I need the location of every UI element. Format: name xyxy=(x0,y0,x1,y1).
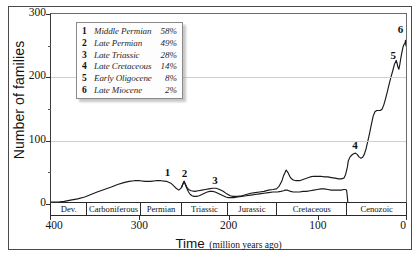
legend-row: 2Late Permian49% xyxy=(82,38,177,50)
x-axis-title: Time (million years ago) xyxy=(50,234,407,252)
y-tick-label: 100 xyxy=(16,133,46,145)
period-cell-jurassic: Jurassic xyxy=(228,203,278,215)
extinction-marker-6: 6 xyxy=(398,24,404,35)
legend-marker-number: 6 xyxy=(82,85,94,97)
legend-row: 5Early Oligocene8% xyxy=(82,73,177,85)
x-tick-label: 400 xyxy=(45,219,62,231)
y-axis-tick-labels: 0100200300 xyxy=(14,0,46,256)
legend-event-name: Early Oligocene xyxy=(94,73,155,85)
legend-marker-number: 5 xyxy=(82,73,94,85)
x-tick-label: 100 xyxy=(309,219,326,231)
period-cell-carboniferous: Carboniferous xyxy=(87,203,140,215)
y-tick-label: 200 xyxy=(16,69,46,81)
x-axis-tick xyxy=(406,216,407,220)
x-tick-label: 0 xyxy=(400,219,406,231)
extinction-marker-2: 2 xyxy=(182,168,188,179)
period-cell-triassic: Triassic xyxy=(182,203,227,215)
legend-row: 6Late Miocene2% xyxy=(82,85,177,97)
legend-extinction-percent: 2% xyxy=(155,85,177,97)
legend-event-name: Late Permian xyxy=(94,38,155,50)
legend-extinction-percent: 28% xyxy=(155,50,177,62)
x-tick-label: 200 xyxy=(220,219,237,231)
x-axis-title-main: Time xyxy=(175,236,205,251)
period-cell-permian: Permian xyxy=(141,203,183,215)
legend-event-name: Late Triassic xyxy=(94,50,155,62)
extinction-marker-5: 5 xyxy=(390,50,396,61)
legend-event-name: Middle Permian xyxy=(94,26,155,38)
y-axis-minor-tick xyxy=(48,46,51,47)
legend-extinction-percent: 58% xyxy=(155,26,177,38)
period-cell-cenozoic: Cenozoic xyxy=(347,203,406,215)
geologic-period-band: Dev.CarboniferousPermianTriassicJurassic… xyxy=(50,203,407,216)
extinction-marker-1: 1 xyxy=(165,167,171,178)
extinction-marker-3: 3 xyxy=(212,175,218,186)
y-tick-label: 300 xyxy=(16,6,46,18)
period-cell-cretaceous: Cretaceous xyxy=(277,203,347,215)
legend-extinction-percent: 14% xyxy=(155,61,177,73)
legend-marker-number: 2 xyxy=(82,38,94,50)
legend-box: 1Middle Permian58%2Late Permian49%3Late … xyxy=(76,22,183,99)
legend-marker-number: 3 xyxy=(82,50,94,62)
legend-row: 3Late Triassic28% xyxy=(82,50,177,62)
extinction-marker-4: 4 xyxy=(352,140,358,151)
legend-row: 4Late Cretaceous14% xyxy=(82,61,177,73)
x-axis-title-sub: (million years ago) xyxy=(209,240,281,250)
y-axis-minor-tick xyxy=(48,172,51,173)
figure-container: Number of families 0100200300 1Middle Pe… xyxy=(0,0,420,256)
y-tick-label: 0 xyxy=(16,196,46,208)
period-cell-dev: Dev. xyxy=(51,203,87,215)
y-axis-tick xyxy=(46,77,51,78)
legend-extinction-percent: 8% xyxy=(155,73,177,85)
y-axis-tick xyxy=(46,141,51,142)
legend-marker-number: 4 xyxy=(82,61,94,73)
legend-extinction-percent: 49% xyxy=(155,38,177,50)
legend-event-name: Late Miocene xyxy=(94,85,155,97)
legend-event-name: Late Cretaceous xyxy=(94,61,155,73)
legend-row: 1Middle Permian58% xyxy=(82,26,177,38)
legend-marker-number: 1 xyxy=(82,26,94,38)
y-axis-minor-tick xyxy=(48,109,51,110)
y-axis-tick xyxy=(46,14,51,15)
x-tick-label: 300 xyxy=(131,219,148,231)
